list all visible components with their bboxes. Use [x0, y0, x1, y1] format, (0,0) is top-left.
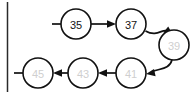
node-43[interactable]: 43 — [68, 58, 98, 88]
node-37[interactable]: 37 — [116, 9, 146, 39]
node-41[interactable]: 41 — [116, 58, 146, 88]
node-39[interactable]: 39 — [159, 30, 189, 60]
node-label-41: 41 — [125, 68, 137, 80]
node-label-35: 35 — [70, 19, 82, 31]
linked-list-figure: 35 37 39 41 43 45 — [0, 0, 195, 98]
node-label-43: 43 — [77, 68, 89, 80]
node-45[interactable]: 45 — [23, 58, 53, 88]
node-label-37: 37 — [125, 19, 137, 31]
edge-35-to-37 — [91, 20, 116, 28]
diagram-canvas: 35 37 39 41 43 45 — [0, 0, 195, 98]
edge-39-to-41 — [146, 60, 172, 76]
edge-43-to-45 — [53, 69, 68, 77]
edge-41-to-43 — [98, 69, 116, 77]
node-label-39: 39 — [168, 40, 180, 52]
node-label-45: 45 — [32, 68, 44, 80]
node-35[interactable]: 35 — [61, 9, 91, 39]
